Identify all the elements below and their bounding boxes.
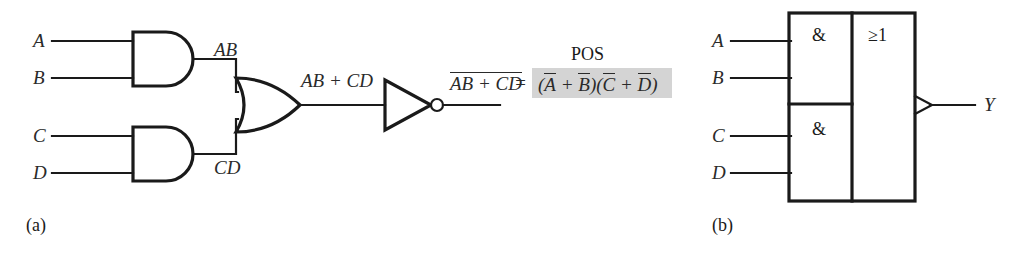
input-label-c: C [33,126,46,145]
pos-term-a-bar: A [544,73,556,94]
or-block-symbol: ≥1 [868,26,887,44]
inverter-shape [385,80,431,130]
and-gate-cd-shape [133,127,193,181]
input-label-a: A [33,31,45,50]
wire-ab-to-or [193,59,238,92]
or-gate-shape [236,78,300,132]
net-label-or-output: AB + CD [301,71,373,90]
pos-label: POS [571,45,604,63]
and-gate-ab-shape [133,32,193,86]
pos-term-d-bar: D [638,73,652,94]
pos-paren-close: ) [651,74,657,95]
iec-input-label-d: D [712,163,726,182]
pos-term-c-bar: C [603,73,616,94]
inverter-output-expression: AB + CD [450,72,522,93]
iec-output-label-y: Y [984,95,995,114]
logic-circuit-figure: A B C D AB CD AB + CD AB + CD = POS (A +… [0,0,1026,257]
pos-term-b-bar: B [578,73,590,94]
and-block-cd-symbol: & [812,120,826,138]
pos-paren-mid: )( [590,74,603,95]
part-label-b: (b) [712,216,733,234]
pos-plus-1: + [556,74,578,95]
iec-input-label-c: C [712,126,725,145]
inverter-output-overbar-term: AB + CD [450,72,522,93]
distinctive-shape-diagram [52,32,500,181]
and-block-ab-symbol: & [812,26,826,44]
net-label-ab: AB [214,40,237,59]
part-label-a: (a) [26,216,46,234]
pos-expression: (A + B)(C + D) [538,73,658,94]
inverter-bubble [431,99,443,111]
input-label-b: B [33,68,45,87]
pos-plus-2: + [615,74,637,95]
equals-sign: = [514,73,527,92]
iec-rectangular-diagram [731,13,975,201]
wire-cd-to-or [193,119,238,154]
net-label-cd: CD [214,158,240,177]
input-label-d: D [33,163,47,182]
iec-input-label-a: A [712,31,724,50]
iec-input-label-b: B [712,68,724,87]
